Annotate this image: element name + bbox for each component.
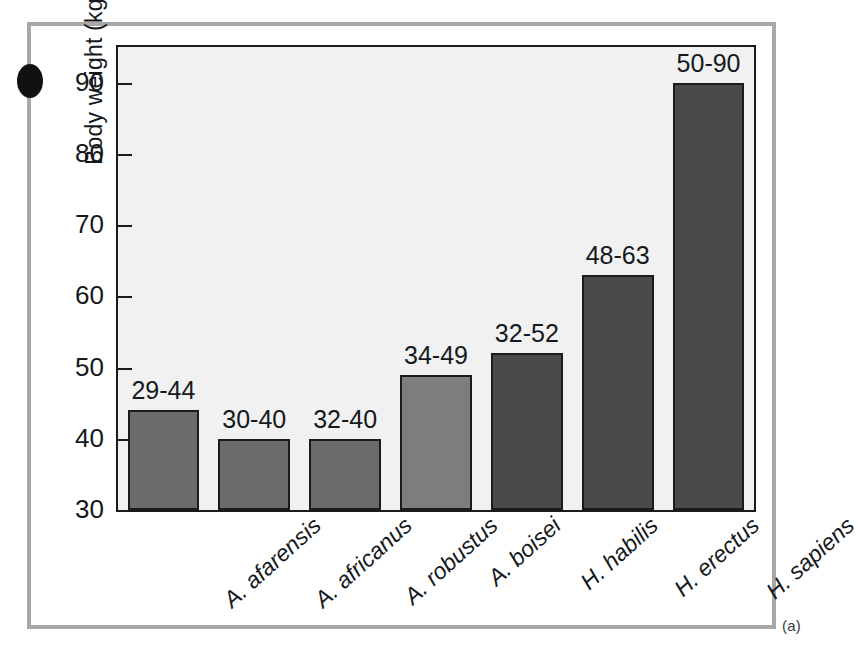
y-tick-label: 90 [52,69,104,95]
x-tick-label: H. erectus [669,512,765,602]
bar-value-label: 50-90 [651,51,767,76]
x-axis-tick-labels: A. afarensisA. africanusA. robustusA. bo… [116,512,756,642]
plot-inner: Body weight (kg) 30405060708090 29-4430-… [118,47,754,510]
y-tick-label: 60 [52,282,104,308]
bar [400,375,472,510]
bar [673,83,745,510]
bar [582,275,654,510]
x-tick-label: A. afarensis [219,512,327,613]
x-tick-label: H. habilis [575,512,663,595]
x-tick-label: A. africanus [309,512,417,613]
bar-value-label: 32-52 [469,321,585,346]
panel-letter: (a) [782,617,801,634]
x-tick-label: A. robustus [399,512,504,610]
bar-value-label: 32-40 [287,407,403,432]
bar-series: 29-4430-4032-4034-4932-5248-6350-90 [118,47,754,510]
bar [128,410,200,510]
bar [491,353,563,510]
bar [309,439,381,510]
bar [218,439,290,510]
plot-area: Body weight (kg) 30405060708090 29-4430-… [116,45,756,512]
y-tick-label: 30 [52,496,104,522]
y-tick-label: 40 [52,425,104,451]
bar-value-label: 29-44 [106,378,222,403]
y-tick-label: 80 [52,140,104,166]
y-tick-label: 50 [52,354,104,380]
dot-marker-icon [17,64,43,98]
bar-value-label: 34-49 [378,343,494,368]
bar-value-label: 48-63 [560,243,676,268]
y-tick-label: 70 [52,211,104,237]
